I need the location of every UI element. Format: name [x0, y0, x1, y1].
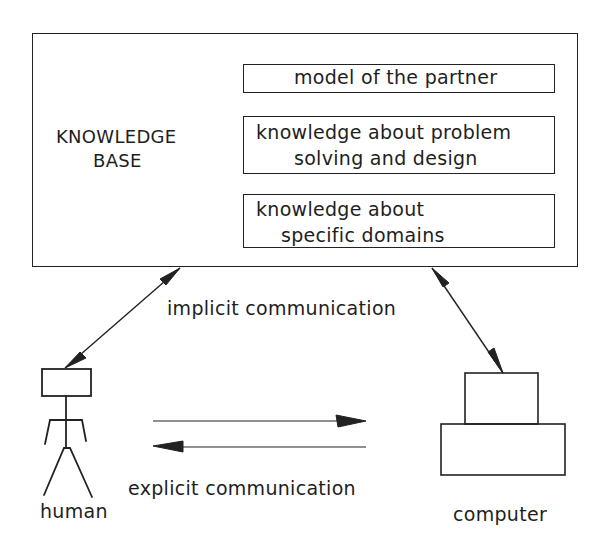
explicit-arrow-to-computer: [153, 415, 366, 427]
human-label: human: [40, 500, 108, 523]
computer-monitor: [465, 373, 538, 424]
explicit-arrow-to-human: [153, 441, 366, 452]
implicit-communication-label: implicit communication: [167, 297, 396, 320]
explicit-communication-label: explicit communication: [128, 477, 356, 500]
computer-base: [441, 424, 565, 475]
diagram-graphics: [0, 0, 600, 543]
human-head: [42, 369, 91, 396]
computer-label: computer: [453, 503, 547, 526]
implicit-arrow-human: [65, 268, 180, 368]
computer-icon: [441, 373, 565, 475]
human-figure-icon: [42, 369, 92, 497]
implicit-arrow-computer: [432, 268, 503, 373]
